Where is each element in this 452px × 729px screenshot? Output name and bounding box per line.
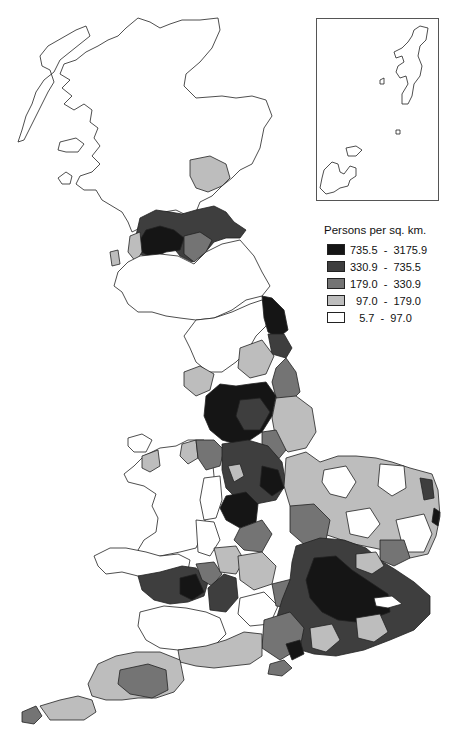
legend-label: 735.5 - 3175.9 — [350, 244, 427, 256]
legend-swatch-white — [327, 312, 345, 323]
region-shropshire — [200, 476, 222, 520]
legend-row: 97.0 - 179.0 — [324, 292, 452, 309]
inset-box-northern-isles — [316, 18, 439, 201]
legend: Persons per sq. km. 735.5 - 3175.9 330.9… — [324, 224, 452, 326]
region-oxford — [238, 552, 276, 590]
legend-swatch-dark — [327, 261, 345, 272]
legend-label: 330.9 - 735.5 — [350, 261, 421, 273]
legend-row: 735.5 - 3175.9 — [324, 241, 452, 258]
legend-row: 330.9 - 735.5 — [324, 258, 452, 275]
legend-label: 179.0 - 330.9 — [350, 278, 421, 290]
region-penwith — [22, 706, 42, 724]
legend-row: 5.7 - 97.0 — [324, 309, 452, 326]
region-cornwall — [40, 696, 96, 720]
legend-label: 5.7 - 97.0 — [350, 312, 412, 324]
region-ipswich — [380, 540, 410, 566]
region-north-east — [262, 296, 288, 338]
region-highlands — [60, 18, 272, 232]
legend-swatch-black — [327, 244, 345, 255]
region-isle-of-wight — [268, 660, 292, 676]
region-humberside — [272, 358, 300, 402]
legend-swatch-light — [327, 295, 345, 306]
legend-swatch-medium — [327, 278, 345, 289]
region-mull — [58, 138, 84, 152]
region-islay — [58, 172, 72, 184]
legend-row: 179.0 - 330.9 — [324, 275, 452, 292]
legend-label: 97.0 - 179.0 — [350, 295, 421, 307]
region-arran — [110, 250, 120, 266]
region-anglesey — [128, 434, 152, 452]
region-somerset — [138, 606, 226, 650]
legend-title: Persons per sq. km. — [324, 224, 452, 236]
